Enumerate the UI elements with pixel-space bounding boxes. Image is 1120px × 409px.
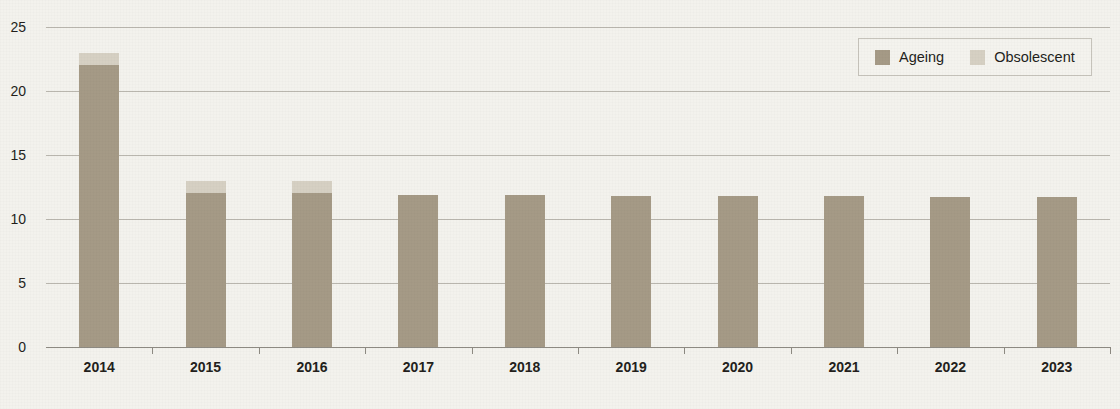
- x-axis-tick-8: [1004, 347, 1005, 354]
- bar-segment-2023-ageing[interactable]: [1037, 197, 1077, 347]
- x-axis-label-2022: 2022: [935, 359, 966, 375]
- legend-entry-ageing[interactable]: Ageing: [875, 49, 944, 65]
- bar-group-2017[interactable]: [398, 27, 438, 347]
- x-axis-tick-6: [791, 347, 792, 354]
- x-axis-tick-9: [1110, 347, 1111, 354]
- bar-segment-2016-ageing[interactable]: [292, 193, 332, 347]
- x-axis-tick-3: [472, 347, 473, 354]
- bar-group-2016[interactable]: [292, 27, 332, 347]
- bar-segment-2017-ageing[interactable]: [398, 195, 438, 347]
- x-axis-label-2014: 2014: [84, 359, 115, 375]
- y-axis-label-10: 10: [0, 211, 26, 227]
- legend-swatch-ageing: [875, 50, 890, 65]
- stacked-bar-chart: 0510152025 20142015201620172018201920202…: [0, 0, 1120, 409]
- x-axis-label-2020: 2020: [722, 359, 753, 375]
- legend-label-obsolescent: Obsolescent: [994, 49, 1075, 65]
- x-axis-label-2017: 2017: [403, 359, 434, 375]
- x-axis-label-2023: 2023: [1041, 359, 1072, 375]
- x-axis-tick-7: [897, 347, 898, 354]
- x-axis-tick-1: [259, 347, 260, 354]
- bar-segment-2015-obsolescent[interactable]: [186, 181, 226, 194]
- bar-segment-2019-ageing[interactable]: [611, 196, 651, 347]
- y-axis-label-0: 0: [0, 339, 26, 355]
- x-axis-label-2019: 2019: [616, 359, 647, 375]
- bar-segment-2020-ageing[interactable]: [718, 196, 758, 347]
- x-axis-tick-2: [365, 347, 366, 354]
- chart-legend: AgeingObsolescent: [858, 38, 1092, 76]
- bar-group-2019[interactable]: [611, 27, 651, 347]
- legend-entry-obsolescent[interactable]: Obsolescent: [970, 49, 1075, 65]
- y-axis-label-25: 25: [0, 19, 26, 35]
- bar-group-2014[interactable]: [79, 27, 119, 347]
- y-axis-label-20: 20: [0, 83, 26, 99]
- x-axis-tick-4: [578, 347, 579, 354]
- x-axis-tick-5: [684, 347, 685, 354]
- bar-group-2018[interactable]: [505, 27, 545, 347]
- bar-segment-2022-ageing[interactable]: [930, 197, 970, 347]
- bar-group-2020[interactable]: [718, 27, 758, 347]
- x-axis-label-2015: 2015: [190, 359, 221, 375]
- x-axis-tick-0: [152, 347, 153, 354]
- y-axis-label-15: 15: [0, 147, 26, 163]
- y-axis-label-5: 5: [0, 275, 26, 291]
- x-axis-label-2021: 2021: [828, 359, 859, 375]
- bar-segment-2014-ageing[interactable]: [79, 65, 119, 347]
- bar-segment-2021-ageing[interactable]: [824, 196, 864, 347]
- legend-swatch-obsolescent: [970, 50, 985, 65]
- x-axis: 2014201520162017201820192020202120222023: [46, 347, 1110, 409]
- bar-segment-2014-obsolescent[interactable]: [79, 53, 119, 66]
- x-axis-label-2018: 2018: [509, 359, 540, 375]
- bar-segment-2016-obsolescent[interactable]: [292, 181, 332, 194]
- bar-segment-2018-ageing[interactable]: [505, 195, 545, 347]
- x-axis-label-2016: 2016: [296, 359, 327, 375]
- bar-group-2015[interactable]: [186, 27, 226, 347]
- legend-label-ageing: Ageing: [899, 49, 944, 65]
- bar-segment-2015-ageing[interactable]: [186, 193, 226, 347]
